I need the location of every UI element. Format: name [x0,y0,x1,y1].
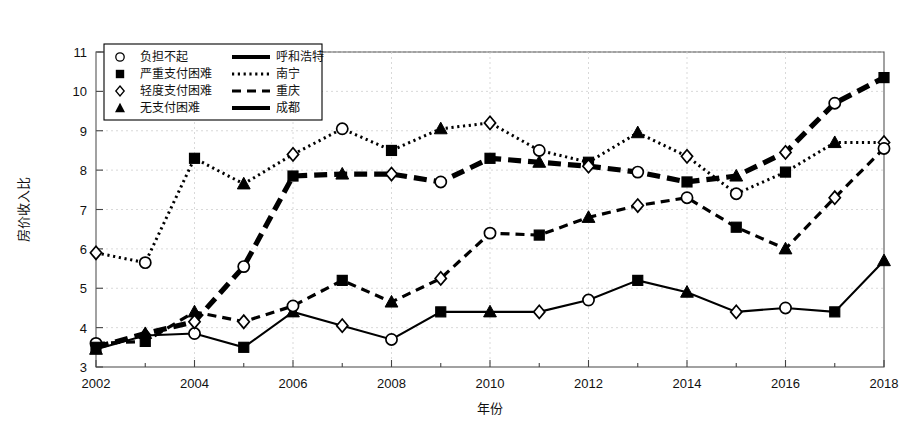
x-tick-label: 2002 [82,376,111,391]
marker-circle-open [878,143,889,154]
marker-diamond-open [386,167,397,180]
legend-series-label: 重庆 [276,84,300,98]
line-chart: 3456789101120022004200620082010201220142… [0,0,912,423]
legend-series-label: 呼和浩特 [276,49,324,64]
x-tick-label: 2010 [476,376,505,391]
x-tick-label: 2004 [180,376,209,391]
marker-diamond-open [681,150,692,163]
y-tick-label: 3 [80,360,87,375]
marker-square-filled [91,342,101,352]
marker-square-filled [781,167,791,177]
marker-circle-open [337,123,348,134]
x-tick-label: 2014 [673,376,702,391]
marker-square-filled [879,73,889,83]
legend-marker-1 [116,53,124,61]
y-tick-label: 7 [80,203,87,218]
marker-diamond-open [632,199,643,212]
y-tick-label: 8 [80,163,87,178]
marker-triangle-filled [631,126,644,138]
marker-circle-open [534,145,545,156]
marker-square-filled [436,307,446,317]
marker-square-filled [337,275,347,285]
marker-diamond-open [90,246,101,259]
marker-diamond-open [238,315,249,328]
y-tick-label: 9 [80,124,87,139]
marker-circle-open [780,302,791,313]
marker-square-filled [485,153,495,163]
legend-marker-2 [116,70,124,78]
marker-triangle-filled [779,242,792,254]
y-tick-label: 10 [73,84,87,99]
marker-square-filled [633,275,643,285]
legend-series-label: 南宁 [276,66,300,81]
y-tick-label: 6 [80,242,87,257]
chart-canvas: 3456789101120022004200620082010201220142… [0,0,912,423]
marker-square-filled [190,153,200,163]
marker-square-filled [116,70,124,78]
legend-marker-label: 严重支付困难 [140,67,212,81]
marker-circle-open [681,192,692,203]
chart-legend: 负担不起呼和浩特严重支付困难南宁轻度支付困难重庆无支付困难成都 [104,44,324,120]
y-axis-label: 房价收入比 [16,177,31,242]
marker-circle-open [484,228,495,239]
marker-diamond-open [287,148,298,161]
legend-marker-label: 无支付困难 [140,101,200,115]
marker-circle-open [386,334,397,345]
marker-triangle-filled [878,254,891,266]
marker-circle-open [287,300,298,311]
marker-square-filled [830,307,840,317]
x-tick-label: 2006 [279,376,308,391]
marker-triangle-filled [434,122,447,134]
legend-marker-label: 轻度支付困难 [140,83,212,98]
y-tick-label: 11 [74,45,88,60]
marker-diamond-open [337,319,348,332]
marker-circle-open [435,176,446,187]
marker-diamond-open [484,116,495,129]
marker-square-filled [534,230,544,240]
marker-square-filled [288,171,298,181]
marker-square-filled [387,145,397,155]
marker-circle-open [731,188,742,199]
x-tick-label: 2012 [574,376,603,391]
marker-diamond-open [731,305,742,318]
x-tick-label: 2016 [771,376,800,391]
x-tick-label: 2018 [870,376,899,391]
marker-circle-open [632,166,643,177]
x-tick-label: 2008 [377,376,406,391]
legend-series-label: 成都 [276,101,300,115]
marker-diamond-open [534,305,545,318]
marker-circle-open [583,294,594,305]
marker-circle-open [116,53,124,61]
marker-square-filled [239,342,249,352]
marker-circle-open [829,98,840,109]
marker-square-filled [682,177,692,187]
marker-circle-open [238,261,249,272]
marker-circle-open [140,257,151,268]
marker-square-filled [731,222,741,232]
y-tick-label: 4 [80,321,87,336]
legend-marker-label: 负担不起 [140,50,188,64]
chart-root: 3456789101120022004200620082010201220142… [0,0,912,423]
x-axis-label: 年份 [477,401,503,416]
y-tick-label: 5 [80,281,87,296]
